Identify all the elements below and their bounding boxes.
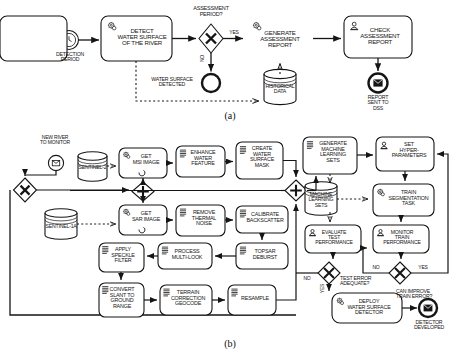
panel-b-caption: (b) — [205, 338, 255, 349]
panel-a-caption: (a) — [205, 110, 255, 121]
flowchart-vector-layer — [0, 0, 459, 360]
figure-canvas: DETECTION PERIOD DETECT WATER SURFACE OF… — [0, 0, 459, 360]
